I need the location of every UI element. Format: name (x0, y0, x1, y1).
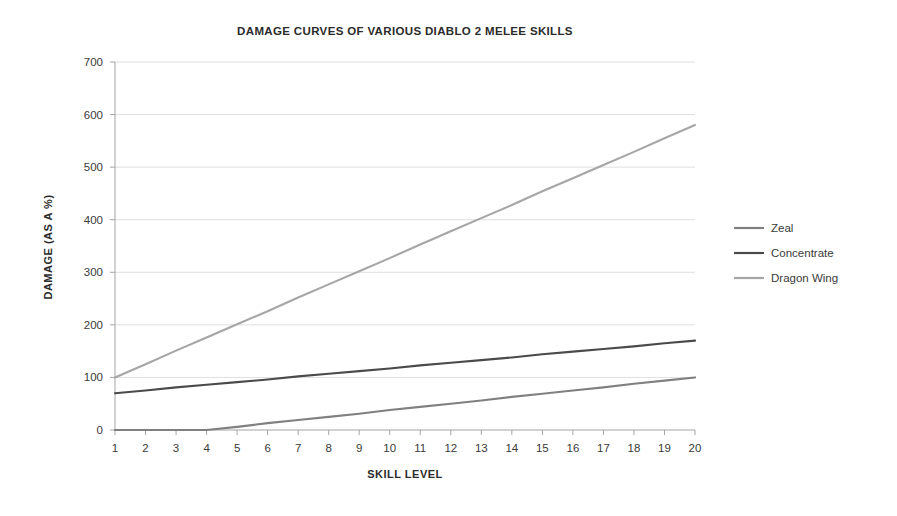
x-tick-label: 4 (203, 442, 210, 454)
x-tick-label: 19 (658, 442, 671, 454)
chart-container: DAMAGE CURVES OF VARIOUS DIABLO 2 MELEE … (0, 0, 897, 516)
y-tick-label: 0 (97, 424, 103, 436)
legend-label-dragon-wing: Dragon Wing (771, 272, 838, 284)
x-tick-labels-group: 1234567891011121314151617181920 (112, 442, 702, 454)
legend: ZealConcentrateDragon Wing (734, 222, 838, 284)
x-tick-label: 15 (536, 442, 549, 454)
series-lines-group (115, 125, 695, 430)
y-tick-label: 700 (84, 56, 103, 68)
x-tick-label: 11 (414, 442, 426, 454)
x-tick-label: 12 (444, 442, 457, 454)
x-tick-label: 7 (295, 442, 301, 454)
series-line-dragon-wing (115, 125, 695, 377)
x-tick-label: 8 (325, 442, 331, 454)
axes-group (115, 62, 695, 430)
x-tick-label: 2 (142, 442, 148, 454)
x-tick-label: 3 (173, 442, 179, 454)
legend-label-zeal: Zeal (771, 222, 793, 234)
legend-label-concentrate: Concentrate (771, 247, 834, 259)
y-tick-label: 600 (84, 109, 103, 121)
y-tick-label: 300 (84, 266, 103, 278)
x-axis-title: SKILL LEVEL (367, 468, 443, 480)
x-tick-label: 1 (112, 442, 118, 454)
y-tick-label: 400 (84, 214, 103, 226)
y-tick-marks-group (110, 62, 115, 430)
x-tick-label: 17 (597, 442, 610, 454)
x-tick-label: 10 (383, 442, 396, 454)
y-axis-title: DAMAGE (AS A %) (42, 194, 54, 299)
x-tick-label: 9 (356, 442, 362, 454)
damage-curves-line-chart: DAMAGE CURVES OF VARIOUS DIABLO 2 MELEE … (0, 0, 897, 516)
y-tick-label: 200 (84, 319, 103, 331)
y-tick-labels-group: 0100200300400500600700 (84, 56, 103, 436)
x-tick-label: 14 (505, 442, 518, 454)
series-line-concentrate (115, 341, 695, 394)
x-tick-label: 20 (689, 442, 702, 454)
y-tick-label: 100 (84, 371, 103, 383)
x-tick-label: 13 (475, 442, 488, 454)
x-tick-label: 18 (628, 442, 641, 454)
gridlines-group (115, 62, 695, 377)
x-tick-label: 16 (566, 442, 579, 454)
x-tick-label: 6 (264, 442, 270, 454)
x-tick-label: 5 (234, 442, 240, 454)
chart-title: DAMAGE CURVES OF VARIOUS DIABLO 2 MELEE … (237, 25, 573, 37)
y-tick-label: 500 (84, 161, 103, 173)
